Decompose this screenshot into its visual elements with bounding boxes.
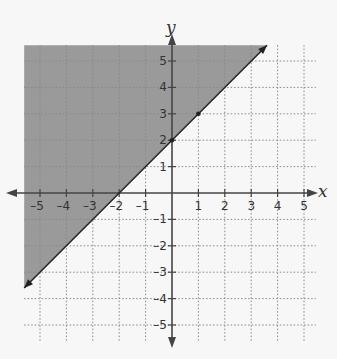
y-tick-label: 3 xyxy=(159,107,167,121)
coordinate-plane: –5–4–3–2–112345–5–4–3–2–112345 x y xyxy=(0,0,337,359)
y-tick-label: 5 xyxy=(159,54,167,68)
x-tick-label: 2 xyxy=(221,199,229,213)
y-tick-label: –4 xyxy=(153,292,167,306)
y-tick-label: 1 xyxy=(159,160,167,174)
y-tick-label: 4 xyxy=(159,80,167,94)
x-axis-label: x xyxy=(318,181,328,201)
x-axis-left-arrow-icon xyxy=(6,189,17,197)
y-tick-label: 2 xyxy=(159,133,167,147)
marked-point xyxy=(196,112,201,117)
y-axis-label: y xyxy=(165,17,176,37)
x-tick-label: –1 xyxy=(136,199,150,213)
x-tick-label: –5 xyxy=(30,199,44,213)
x-tick-label: –3 xyxy=(83,199,97,213)
y-tick-label: –5 xyxy=(153,318,167,332)
x-tick-label: 3 xyxy=(247,199,255,213)
x-tick-label: 1 xyxy=(195,199,203,213)
x-tick-label: –4 xyxy=(57,199,71,213)
marked-point xyxy=(170,138,175,143)
y-axis-bottom-arrow-icon xyxy=(168,337,176,348)
x-tick-label: –2 xyxy=(109,199,123,213)
x-axis-right-arrow-icon xyxy=(307,189,318,197)
y-tick-label: –1 xyxy=(153,212,167,226)
x-tick-label: 4 xyxy=(274,199,282,213)
y-tick-label: –2 xyxy=(153,239,167,253)
y-tick-label: –3 xyxy=(153,265,167,279)
x-tick-label: 5 xyxy=(300,199,308,213)
